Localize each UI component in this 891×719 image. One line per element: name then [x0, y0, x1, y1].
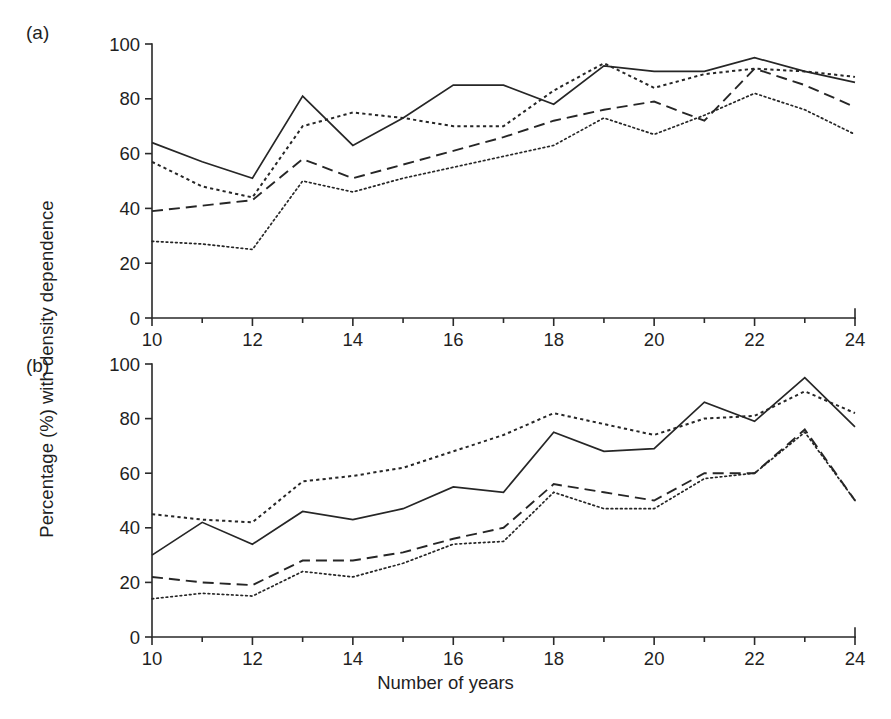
x-tick-label: 14	[343, 648, 364, 669]
y-tick-label: 0	[130, 627, 140, 648]
x-tick-label: 22	[744, 648, 765, 669]
figure-root: (a) (b) Percentage (%) with density depe…	[0, 0, 891, 719]
y-tick-label: 40	[119, 517, 140, 538]
x-tick-label: 18	[543, 648, 564, 669]
x-tick-label: 10	[142, 648, 163, 669]
x-tick-label: 20	[644, 648, 665, 669]
series-line-coarse-dotted	[152, 391, 855, 522]
series-line-dashed	[152, 430, 855, 586]
y-tick-label: 100	[109, 354, 140, 375]
x-tick-label: 12	[242, 648, 263, 669]
x-tick-label: 24	[845, 648, 866, 669]
y-tick-label: 80	[119, 408, 140, 429]
y-tick-label: 60	[119, 463, 140, 484]
chart-panel-b: 0204060801001012141618202224	[0, 0, 891, 719]
y-tick-label: 20	[119, 572, 140, 593]
x-tick-label: 16	[443, 648, 464, 669]
series-line-fine-dotted	[152, 432, 855, 599]
axis-spine	[152, 364, 855, 637]
